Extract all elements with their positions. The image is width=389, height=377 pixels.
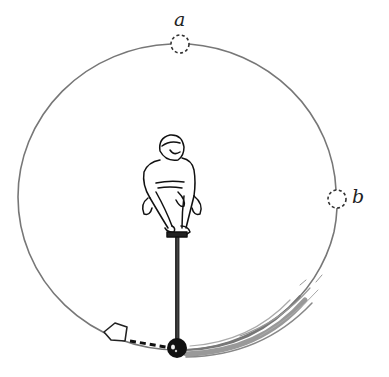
hammer-ball <box>167 338 187 358</box>
thrower-figure <box>143 135 201 237</box>
release-direction-arrow-icon <box>104 323 127 341</box>
point-a-label: a <box>174 10 185 29</box>
hammer-throw-diagram <box>0 0 389 377</box>
motion-blur <box>186 275 322 357</box>
point-a-marker <box>171 35 189 53</box>
point-b-marker <box>328 190 346 208</box>
point-b-label: b <box>352 187 364 206</box>
